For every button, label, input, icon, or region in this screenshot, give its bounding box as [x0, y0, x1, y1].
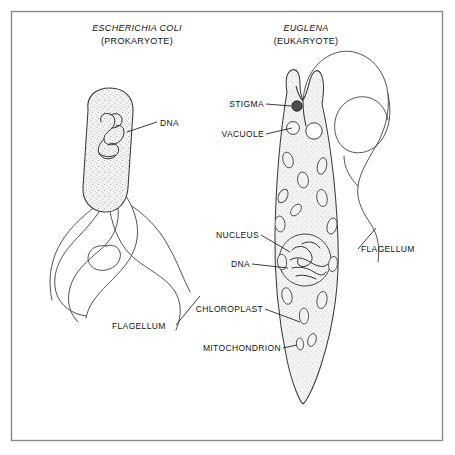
- cell-comparison-figure: ESCHERICHIA COLI (PROKARYOTE) EUGLENA (E…: [0, 0, 455, 455]
- label-euglena-stigma: STIGMA: [166, 100, 264, 109]
- contractile-vacuole: [287, 122, 300, 135]
- stigma: [292, 101, 302, 111]
- panel-title-prokaryote: ESCHERICHIA COLI (PROKARYOTE): [57, 22, 217, 48]
- label-euglena-flagellum: FLAGELLUM: [361, 245, 415, 254]
- prokaryote-cell-type: (PROKARYOTE): [57, 35, 217, 48]
- contractile-vacuole: [306, 123, 322, 139]
- euglena-cell-group: [274, 51, 390, 404]
- figure-border: [12, 12, 443, 441]
- ecoli-cell-wall: [83, 88, 133, 212]
- label-euglena-mitochondrion: MITOCHONDRION: [113, 344, 281, 353]
- prokaryote-scientific-name: ESCHERICHIA COLI: [57, 22, 217, 35]
- label-ecoli-flagellum: FLAGELLUM: [112, 322, 166, 331]
- label-euglena-vacuole: VACUOLE: [156, 130, 264, 139]
- label-euglena-chloroplast: CHLOROPLAST: [133, 305, 263, 314]
- eukaryote-cell-type: (EUKARYOTE): [226, 35, 386, 48]
- diagram-canvas: [0, 0, 455, 455]
- eukaryote-scientific-name: EUGLENA: [226, 22, 386, 35]
- chloroplast: [299, 308, 309, 324]
- label-euglena-dna: DNA: [160, 260, 250, 269]
- panel-title-eukaryote: EUGLENA (EUKARYOTE): [226, 22, 386, 48]
- label-ecoli-dna: DNA: [160, 119, 179, 128]
- label-euglena-nucleus: NUCLEUS: [151, 231, 259, 240]
